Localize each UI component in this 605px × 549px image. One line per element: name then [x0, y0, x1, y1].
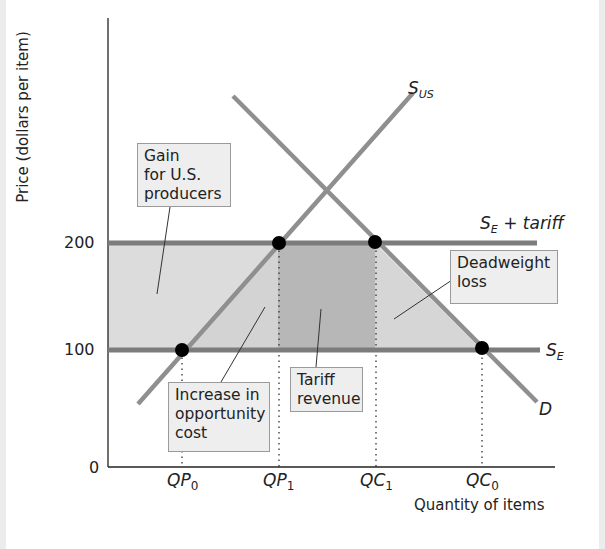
x-tick-qp1: QP1 [263, 470, 294, 493]
x-tick-qp0: QP0 [167, 470, 198, 493]
callout-gain-us-producers: Gain for U.S. producers [137, 143, 231, 207]
point-qp0 [175, 343, 189, 357]
callout-deadweight-loss: Deadweight loss [450, 250, 558, 304]
label-d: D [539, 399, 552, 419]
x-tick-qc0: QC0 [466, 470, 499, 493]
y-tick-200: 200 [64, 233, 95, 252]
x-axis-title: Quantity of items [414, 496, 545, 514]
y-tick-100: 100 [64, 340, 95, 359]
callout-tariff-revenue: Tariff revenue [290, 367, 363, 412]
x-tick-qc1: QC1 [360, 470, 393, 493]
label-se: SE [546, 340, 564, 363]
label-se-tariff: SE + tariff [480, 213, 564, 236]
point-qc1 [368, 235, 382, 249]
y-axis-title: Price (dollars per item) [14, 22, 32, 212]
point-qc0 [475, 341, 489, 355]
point-qp1 [272, 236, 286, 250]
tariff-revenue-area [278, 243, 375, 350]
y-tick-0: 0 [89, 458, 99, 477]
callout-opportunity-cost: Increase in opportunity cost [168, 382, 270, 452]
label-s-us: SUS [408, 78, 434, 101]
